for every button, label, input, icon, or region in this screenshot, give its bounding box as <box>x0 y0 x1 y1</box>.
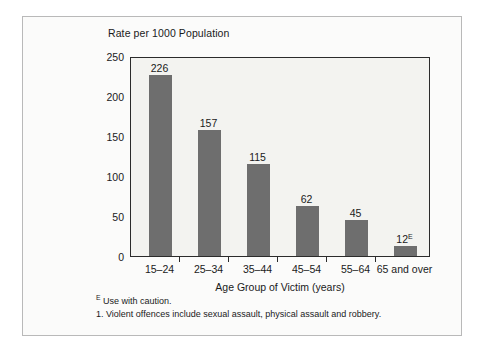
bar-value-65-and-over: 12E <box>396 233 412 245</box>
y-tick-label-100: 100 <box>88 171 124 183</box>
x-cat-label-35-44: 35–44 <box>243 263 272 275</box>
x-cat-label-55-64: 55–64 <box>341 263 370 275</box>
bar-35-44[interactable] <box>247 164 270 256</box>
bar-value-65-and-over-number: 12 <box>396 233 408 245</box>
footnote-flag-marker: E <box>96 294 101 301</box>
chart-title: Rate per 1000 Population <box>108 27 230 39</box>
footnotes: E Use with caution. 1. Violent offences … <box>96 295 381 321</box>
x-cat-label-45-54: 45–54 <box>292 263 321 275</box>
x-tick-mark-1 <box>179 257 180 262</box>
bar-value-25-34: 157 <box>200 117 218 129</box>
y-tick-label-250: 250 <box>88 51 124 63</box>
x-tick-mark-2 <box>228 257 229 262</box>
bar-value-45-54: 62 <box>301 193 313 205</box>
bar-45-54[interactable] <box>296 206 319 256</box>
footnote-flag-text: Use with caution. <box>103 296 172 306</box>
bar-55-64[interactable] <box>345 220 368 256</box>
y-tick-label-0: 0 <box>88 251 124 263</box>
footnote-flag: E Use with caution. <box>96 295 381 308</box>
bar-25-34[interactable] <box>198 130 221 256</box>
x-cat-label-15-24: 15–24 <box>145 263 174 275</box>
figure-root: Rate per 1000 Population 0 50 100 150 20… <box>0 0 482 349</box>
x-axis-title: Age Group of Victim (years) <box>215 281 344 293</box>
bar-value-55-64: 45 <box>350 207 362 219</box>
y-tick-label-50: 50 <box>88 211 124 223</box>
x-cat-label-65-and-over: 65 and over <box>377 263 432 275</box>
x-tick-mark-3 <box>277 257 278 262</box>
bar-value-35-44: 115 <box>249 151 266 163</box>
y-tick-label-200: 200 <box>88 91 124 103</box>
bar-value-65-and-over-flag: E <box>408 233 413 240</box>
x-tick-mark-4 <box>326 257 327 262</box>
bar-65-and-over[interactable] <box>394 246 417 256</box>
y-tick-label-150: 150 <box>88 131 124 143</box>
bar-15-24[interactable] <box>149 75 172 256</box>
plot-area <box>130 57 430 257</box>
x-tick-mark-5 <box>375 257 376 262</box>
bar-value-15-24: 226 <box>151 62 169 74</box>
x-cat-label-25-34: 25–34 <box>194 263 223 275</box>
footnote-one: 1. Violent offences include sexual assau… <box>96 308 381 321</box>
